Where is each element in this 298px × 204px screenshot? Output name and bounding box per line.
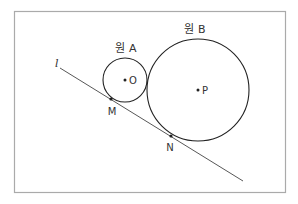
frame-border [15, 12, 286, 193]
center-o-label: O [129, 75, 137, 86]
center-p-label: P [202, 85, 208, 96]
tangent-point-n-label: N [166, 142, 173, 153]
center-p-dot [197, 89, 200, 92]
tangent-point-n [169, 134, 172, 137]
tangent-circles-diagram: l 원 A O 원 B P M N [0, 0, 298, 204]
center-o-dot [124, 79, 127, 82]
circle-b-label: 원 B [184, 23, 205, 36]
tangent-point-m-label: M [108, 106, 117, 117]
tangent-point-m [109, 97, 112, 100]
tangent-line-l [60, 68, 243, 181]
line-label-l: l [55, 57, 59, 70]
circle-a-label: 원 A [115, 42, 136, 55]
